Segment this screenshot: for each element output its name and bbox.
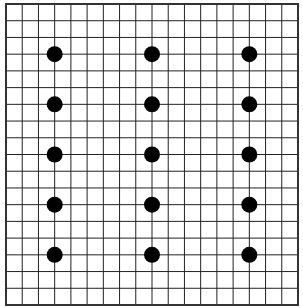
dot [241,247,257,263]
dot [47,197,63,213]
dot [241,46,257,62]
dot [144,96,160,112]
dot [47,46,63,62]
dot [47,96,63,112]
dot [144,46,160,62]
dot [241,96,257,112]
grid-board [0,0,303,308]
dot [241,197,257,213]
dot [241,147,257,163]
dot [144,197,160,213]
dot [144,247,160,263]
dot [144,147,160,163]
dot [47,247,63,263]
dot [47,147,63,163]
